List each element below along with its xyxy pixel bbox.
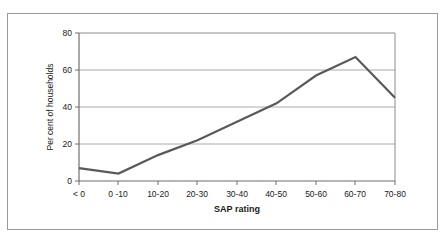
y-tick-labels: 80 60 40 20 0 (63, 28, 73, 186)
x-tick-label-40-50: 40-50 (265, 189, 287, 199)
x-tick-label-lt-0: < 0 (73, 189, 85, 199)
x-tick-marks (79, 181, 395, 185)
x-tick-label-0-10: 0 -10 (108, 189, 128, 199)
y-tick-label-60: 60 (63, 65, 73, 75)
y-tick-label-80: 80 (63, 28, 73, 38)
x-tick-labels: < 0 0 -10 10-20 20-30 30-40 40-50 50-60 … (73, 189, 406, 199)
x-axis-title: SAP rating (214, 204, 260, 214)
x-tick-label-10-20: 10-20 (147, 189, 169, 199)
x-tick-label-30-40: 30-40 (226, 189, 248, 199)
x-tick-label-60-70: 60-70 (344, 189, 366, 199)
x-tick-label-50-60: 50-60 (305, 189, 327, 199)
y-axis-title: Per cent of households (45, 64, 55, 151)
x-tick-label-70-80: 70-80 (384, 189, 406, 199)
y-tick-label-40: 40 (63, 102, 73, 112)
line-chart: 80 60 40 20 0 < 0 0 -10 10-20 20-30 30-4… (0, 0, 447, 243)
chart-figure: 80 60 40 20 0 < 0 0 -10 10-20 20-30 30-4… (0, 0, 447, 243)
y-tick-label-0: 0 (67, 176, 72, 186)
x-tick-label-20-30: 20-30 (186, 189, 208, 199)
y-tick-label-20: 20 (63, 139, 73, 149)
